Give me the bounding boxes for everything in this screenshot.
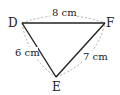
side-label-ef: 7 cm xyxy=(83,51,108,62)
vertex-label-e: E xyxy=(52,80,61,94)
vertex-label-f: F xyxy=(106,16,114,30)
edge-ef xyxy=(56,23,105,77)
triangle-diagram: D F E 8 cm 6 cm 7 cm xyxy=(0,0,120,95)
vertex-label-d: D xyxy=(8,16,18,30)
side-label-df: 8 cm xyxy=(52,7,77,18)
side-label-de: 6 cm xyxy=(15,47,40,58)
